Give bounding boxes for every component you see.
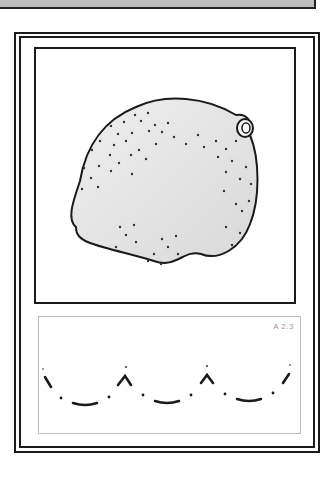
tracing-exercise-box: A 2.3 <box>38 316 301 434</box>
top-strip <box>0 0 316 9</box>
lemon-illustration <box>36 49 294 302</box>
dotted-scallop-pattern <box>39 317 300 433</box>
picture-frame <box>34 47 296 304</box>
